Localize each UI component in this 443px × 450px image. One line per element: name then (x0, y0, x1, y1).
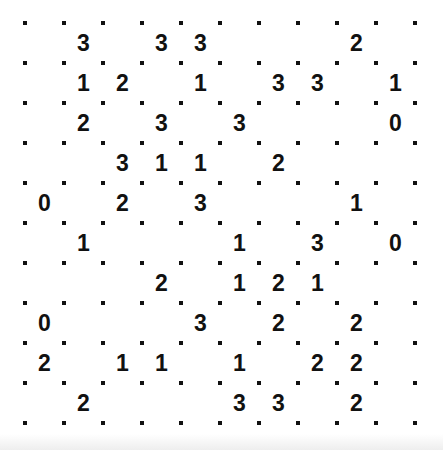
clue-cell[interactable]: 3 (259, 383, 298, 423)
grid-cell[interactable] (25, 383, 64, 423)
grid-cell[interactable] (220, 63, 259, 103)
grid-cell[interactable] (142, 63, 181, 103)
clue-cell[interactable]: 3 (220, 103, 259, 143)
clue-cell[interactable]: 3 (298, 63, 337, 103)
clue-cell[interactable]: 1 (103, 343, 142, 383)
grid-cell[interactable] (220, 303, 259, 343)
grid-cell[interactable] (103, 23, 142, 63)
clue-cell[interactable]: 1 (298, 263, 337, 303)
clue-cell[interactable]: 3 (220, 383, 259, 423)
grid-cell[interactable] (64, 143, 103, 183)
clue-cell[interactable]: 1 (220, 223, 259, 263)
grid-cell[interactable] (259, 223, 298, 263)
clue-cell[interactable]: 1 (64, 223, 103, 263)
clue-cell[interactable]: 0 (25, 303, 64, 343)
clue-cell[interactable]: 2 (337, 303, 376, 343)
grid-cell[interactable] (25, 63, 64, 103)
grid-cell[interactable] (25, 23, 64, 63)
grid-cell[interactable] (142, 223, 181, 263)
grid-cell[interactable] (298, 183, 337, 223)
clue-cell[interactable]: 2 (259, 303, 298, 343)
clue-cell[interactable]: 2 (259, 263, 298, 303)
clue-cell[interactable]: 3 (181, 303, 220, 343)
grid-cell[interactable] (298, 23, 337, 63)
clue-cell[interactable]: 1 (220, 263, 259, 303)
clue-cell[interactable]: 0 (376, 223, 415, 263)
grid-cell[interactable] (181, 383, 220, 423)
grid-cell[interactable] (259, 343, 298, 383)
grid-cell[interactable] (103, 303, 142, 343)
grid-cell[interactable] (376, 143, 415, 183)
clue-cell[interactable]: 1 (142, 143, 181, 183)
grid-cell[interactable] (220, 143, 259, 183)
grid-cell[interactable] (337, 263, 376, 303)
clue-cell[interactable]: 3 (142, 103, 181, 143)
grid-cell[interactable] (376, 303, 415, 343)
grid-cell[interactable] (25, 103, 64, 143)
clue-cell[interactable]: 1 (142, 343, 181, 383)
clue-cell[interactable]: 2 (103, 63, 142, 103)
grid-cell[interactable] (64, 303, 103, 343)
grid-cell[interactable] (259, 183, 298, 223)
grid-cell[interactable] (376, 343, 415, 383)
clue-cell[interactable]: 2 (337, 383, 376, 423)
grid-cell[interactable] (64, 343, 103, 383)
grid-cell[interactable] (181, 103, 220, 143)
grid-cell[interactable] (142, 303, 181, 343)
grid-cell[interactable] (25, 263, 64, 303)
grid-cell[interactable] (103, 263, 142, 303)
clue-cell[interactable]: 2 (259, 143, 298, 183)
clue-cell[interactable]: 1 (220, 343, 259, 383)
clue-cell[interactable]: 1 (337, 183, 376, 223)
grid-cell[interactable] (259, 23, 298, 63)
clue-cell[interactable]: 2 (64, 103, 103, 143)
grid-cell[interactable] (220, 23, 259, 63)
clue-cell[interactable]: 2 (337, 343, 376, 383)
grid-cell[interactable] (337, 143, 376, 183)
grid-cell[interactable] (181, 343, 220, 383)
grid-cell[interactable] (376, 263, 415, 303)
clue-cell[interactable]: 1 (64, 63, 103, 103)
clue-cell[interactable]: 0 (25, 183, 64, 223)
grid-cell[interactable] (298, 103, 337, 143)
clue-cell[interactable]: 2 (25, 343, 64, 383)
grid-cell[interactable] (103, 223, 142, 263)
grid-cell[interactable] (25, 143, 64, 183)
clue-cell[interactable]: 3 (259, 63, 298, 103)
grid-cell[interactable] (142, 183, 181, 223)
clue-cell[interactable]: 2 (337, 23, 376, 63)
grid-cell[interactable] (337, 63, 376, 103)
grid-cell[interactable] (337, 103, 376, 143)
grid-cell[interactable] (220, 183, 259, 223)
clue-cell[interactable]: 3 (181, 183, 220, 223)
clue-cell[interactable]: 3 (181, 23, 220, 63)
clue-cell[interactable]: 2 (142, 263, 181, 303)
clue-cell[interactable]: 1 (181, 143, 220, 183)
clue-cell[interactable]: 2 (64, 383, 103, 423)
grid-cell[interactable] (103, 103, 142, 143)
grid-cell[interactable] (64, 183, 103, 223)
clue-cell[interactable]: 1 (376, 63, 415, 103)
clue-cell[interactable]: 1 (181, 63, 220, 103)
clue-cell[interactable]: 3 (103, 143, 142, 183)
grid-cell[interactable] (142, 383, 181, 423)
grid-cell[interactable] (298, 383, 337, 423)
clue-cell[interactable]: 3 (64, 23, 103, 63)
grid-cell[interactable] (376, 183, 415, 223)
clue-cell[interactable]: 2 (298, 343, 337, 383)
clue-cell[interactable]: 2 (103, 183, 142, 223)
grid-cell[interactable] (298, 143, 337, 183)
grid-cell[interactable] (337, 223, 376, 263)
grid-cell[interactable] (25, 223, 64, 263)
grid-cell[interactable] (181, 223, 220, 263)
clue-cell[interactable]: 3 (142, 23, 181, 63)
grid-cell[interactable] (298, 303, 337, 343)
grid-cell[interactable] (181, 263, 220, 303)
clue-cell[interactable]: 0 (376, 103, 415, 143)
grid-cell[interactable] (259, 103, 298, 143)
grid-cell[interactable] (64, 263, 103, 303)
grid-cell[interactable] (376, 383, 415, 423)
grid-cell[interactable] (376, 23, 415, 63)
grid-cell[interactable] (103, 383, 142, 423)
clue-cell[interactable]: 3 (298, 223, 337, 263)
